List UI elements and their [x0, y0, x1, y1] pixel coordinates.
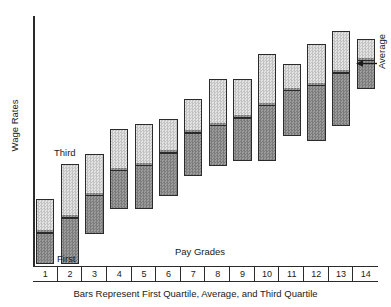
x-tick-label-12: 12 — [304, 266, 329, 282]
bar-average-line — [86, 195, 102, 197]
bar-lower-segment — [160, 150, 176, 195]
bar-lower-segment — [284, 88, 300, 136]
chart-caption: Bars Represent First Quartile, Average, … — [0, 288, 391, 299]
x-tick-label-13: 13 — [329, 266, 354, 282]
x-tick-label-8: 8 — [205, 266, 230, 282]
bar-average-line — [62, 217, 78, 219]
x-tick-label-7: 7 — [181, 266, 206, 282]
bar-upper-segment — [210, 80, 226, 125]
bar-lower-segment — [234, 115, 250, 160]
x-tick-label-9: 9 — [230, 266, 255, 282]
bar-lower-segment — [308, 83, 324, 141]
x-tick-label-4: 4 — [107, 266, 132, 282]
annotation-third-quartile: Third — [54, 147, 76, 158]
bar-average-line — [308, 85, 324, 87]
bar-average-line — [284, 90, 300, 92]
bar-upper-segment — [284, 65, 300, 90]
x-tick-label-2: 2 — [58, 266, 83, 282]
x-tick-label-5: 5 — [132, 266, 157, 282]
bar-pay-grade-3 — [85, 154, 103, 234]
annotation-first-quartile: First — [57, 253, 75, 264]
x-tick-label-3: 3 — [82, 266, 107, 282]
bar-upper-segment — [234, 80, 250, 118]
wage-rates-quartile-chart: Wage Rates 1234567891011121314 Pay Grade… — [0, 0, 391, 307]
bar-lower-segment — [37, 230, 53, 263]
bar-lower-segment — [185, 130, 201, 175]
x-tick-label-14: 14 — [353, 266, 378, 282]
bar-average-line — [111, 170, 127, 172]
bar-upper-segment — [358, 40, 374, 60]
bar-pay-grade-1 — [36, 199, 54, 264]
annotation-average: Average — [376, 22, 387, 82]
bar-average-line — [136, 165, 152, 167]
plot-area — [33, 16, 378, 266]
x-tick-label-1: 1 — [33, 266, 58, 282]
bar-lower-segment — [86, 193, 102, 233]
bar-pay-grade-8 — [209, 79, 227, 167]
x-tick-label-6: 6 — [156, 266, 181, 282]
bar-upper-segment — [259, 55, 275, 105]
x-tick-label-11: 11 — [279, 266, 304, 282]
y-axis-title: Wage Rates — [9, 91, 20, 161]
bar-pay-grade-4 — [110, 129, 128, 209]
bar-upper-segment — [308, 45, 324, 85]
bar-lower-segment — [333, 70, 349, 125]
bar-upper-segment — [333, 32, 349, 72]
bar-lower-segment — [111, 168, 127, 208]
bar-upper-segment — [86, 155, 102, 195]
bar-average-line — [160, 152, 176, 154]
bar-average-line — [333, 72, 349, 74]
bar-average-line — [37, 232, 53, 234]
bar-pay-grade-13 — [332, 31, 350, 126]
bar-lower-segment — [136, 163, 152, 208]
bar-upper-segment — [37, 200, 53, 233]
bar-lower-segment — [210, 123, 226, 166]
bar-average-line — [234, 117, 250, 119]
bar-upper-segment — [185, 100, 201, 133]
bar-pay-grade-10 — [258, 54, 276, 162]
bar-average-line — [185, 132, 201, 134]
bar-upper-segment — [160, 120, 176, 153]
bar-pay-grade-2 — [61, 164, 79, 264]
bar-average-line — [210, 125, 226, 127]
bar-pay-grade-5 — [135, 124, 153, 209]
bar-average-line — [259, 105, 275, 107]
bar-pay-grade-12 — [307, 44, 325, 142]
bar-upper-segment — [111, 130, 127, 170]
x-axis-title: Pay Grades — [150, 246, 250, 257]
x-tick-label-10: 10 — [255, 266, 280, 282]
bar-pay-grade-9 — [233, 79, 251, 162]
bar-pay-grade-11 — [283, 64, 301, 137]
bar-lower-segment — [259, 103, 275, 161]
bar-pay-grade-6 — [159, 119, 177, 197]
bar-upper-segment — [136, 125, 152, 165]
bar-upper-segment — [62, 165, 78, 218]
x-axis-tick-labels: 1234567891011121314 — [33, 266, 378, 282]
average-arrow-icon — [356, 59, 378, 68]
bar-pay-grade-7 — [184, 99, 202, 177]
